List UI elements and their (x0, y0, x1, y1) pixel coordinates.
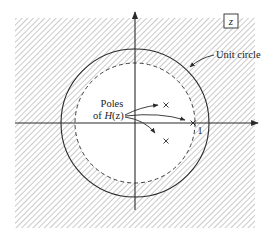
unit-circle-label: Unit circle (216, 49, 261, 60)
poles-label-line2: of H(z) (93, 110, 124, 122)
z-plane-diagram: z Unit circle Poles of H(z) 1 (0, 0, 276, 243)
poles-label-line1: Poles (101, 98, 124, 109)
z-plane-label: z (228, 15, 234, 27)
real-axis-tick-label-one: 1 (198, 125, 203, 136)
